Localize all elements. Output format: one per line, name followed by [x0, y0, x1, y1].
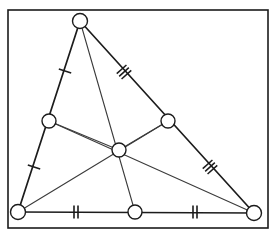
canvas-background	[0, 0, 275, 237]
apex-vertex	[73, 14, 88, 29]
bottom-side-midpoint	[128, 205, 142, 219]
right-side-midpoint	[161, 114, 175, 128]
bottom-right-vertex	[247, 206, 262, 221]
diagram-canvas	[0, 0, 275, 237]
bottom-left-vertex	[11, 205, 26, 220]
triangle-medians-figure	[0, 0, 275, 237]
left-side-midpoint	[42, 114, 56, 128]
centroid	[112, 143, 126, 157]
